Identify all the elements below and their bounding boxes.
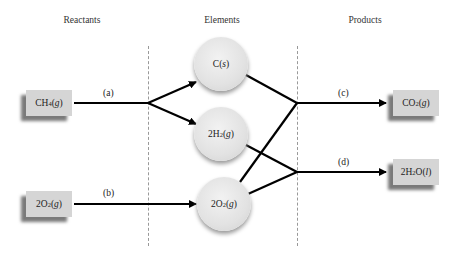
element-state: g <box>226 129 231 139</box>
reactant-box-ch4: CH4(g) <box>26 90 72 116</box>
reactant-subscript: 4 <box>48 100 51 107</box>
reactant-box-o2: 2O2(g) <box>26 191 72 217</box>
element-formula: O <box>216 199 223 209</box>
element-subscript: 2 <box>220 131 223 138</box>
product-state: l <box>426 167 429 177</box>
reactant-subscript: 2 <box>48 201 51 208</box>
element-circle-o2: 2O2(g) <box>197 177 251 231</box>
reactant-state: g <box>55 98 60 108</box>
product-formula-tail: O <box>416 167 423 177</box>
product-subscript: 2 <box>415 100 418 107</box>
element-circle-c: C(s) <box>194 37 248 91</box>
product-state: g <box>422 98 427 108</box>
element-subscript: 2 <box>223 201 226 208</box>
product-formula: CO <box>402 98 415 108</box>
product-formula: H <box>405 167 412 177</box>
reactant-formula: O <box>41 199 48 209</box>
element-formula: H <box>213 129 220 139</box>
element-circle-h2: 2H2(g) <box>194 107 248 161</box>
step-label-a: (a) <box>103 88 114 98</box>
element-formula: C <box>213 59 219 69</box>
reactant-state: g <box>54 199 59 209</box>
element-state: g <box>229 199 234 209</box>
step-label-d: (d) <box>338 157 349 167</box>
product-box-h2o: 2H2O(l) <box>393 159 439 185</box>
product-box-co2: CO2(g) <box>393 90 439 116</box>
reactant-formula: CH <box>35 98 48 108</box>
element-state: s <box>222 59 226 69</box>
step-label-c: (c) <box>338 88 349 98</box>
step-label-b: (b) <box>103 188 114 198</box>
